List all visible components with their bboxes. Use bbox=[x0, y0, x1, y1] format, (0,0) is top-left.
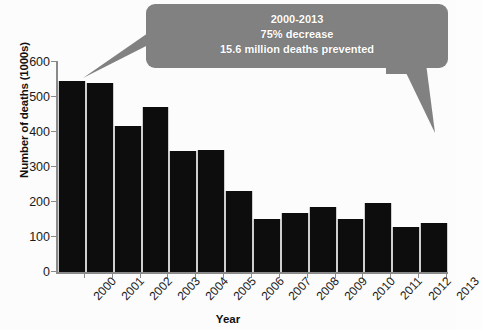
y-tick-label-200: 200 bbox=[16, 196, 50, 209]
bar-2008 bbox=[281, 213, 309, 272]
callout-line-2: 75% decrease bbox=[152, 27, 442, 42]
x-tick-label-2008: 2008 bbox=[314, 274, 342, 303]
x-tick-label-2012: 2012 bbox=[425, 274, 453, 303]
bar-2009 bbox=[309, 207, 337, 272]
x-tick-label-2004: 2004 bbox=[202, 274, 230, 303]
callout-text: 2000-2013 75% decrease 15.6 million deat… bbox=[152, 12, 442, 57]
y-tick-label-0: 0 bbox=[16, 266, 50, 279]
bar-2007 bbox=[253, 219, 281, 272]
x-tick-label-2001: 2001 bbox=[119, 274, 147, 303]
x-tick-label-2007: 2007 bbox=[286, 274, 314, 303]
y-tick-mark-300 bbox=[51, 166, 57, 167]
x-tick-label-2010: 2010 bbox=[370, 274, 398, 303]
x-tick-label-2006: 2006 bbox=[258, 274, 286, 303]
x-tick-label-2003: 2003 bbox=[175, 274, 203, 303]
x-tick-label-2011: 2011 bbox=[397, 274, 425, 302]
bar-2011 bbox=[364, 203, 392, 272]
bar-2012 bbox=[392, 227, 420, 272]
bar-2013 bbox=[420, 223, 448, 272]
callout-line-1: 2000-2013 bbox=[152, 12, 442, 27]
y-tick-label-300: 300 bbox=[16, 161, 50, 174]
y-tick-mark-100 bbox=[51, 236, 57, 237]
bar-2010 bbox=[337, 219, 365, 272]
x-tick-label-2005: 2005 bbox=[230, 274, 258, 303]
callout-annotation: 2000-2013 75% decrease 15.6 million deat… bbox=[0, 0, 456, 150]
bar-2004 bbox=[169, 151, 197, 272]
x-axis-tick-labels: 2000200120022003200420052006200720082009… bbox=[56, 274, 448, 314]
y-tick-mark-0 bbox=[51, 271, 57, 272]
x-tick-label-2009: 2009 bbox=[342, 274, 370, 303]
x-tick-label-2002: 2002 bbox=[147, 274, 175, 303]
bar-2005 bbox=[197, 150, 225, 272]
bar-2006 bbox=[225, 191, 253, 272]
x-tick-label-2013: 2013 bbox=[453, 274, 481, 303]
x-axis-title: Year bbox=[0, 313, 456, 325]
y-tick-label-100: 100 bbox=[16, 231, 50, 244]
x-tick-label-2000: 2000 bbox=[91, 274, 119, 303]
y-tick-mark-200 bbox=[51, 201, 57, 202]
callout-line-3: 15.6 million deaths prevented bbox=[152, 42, 442, 57]
